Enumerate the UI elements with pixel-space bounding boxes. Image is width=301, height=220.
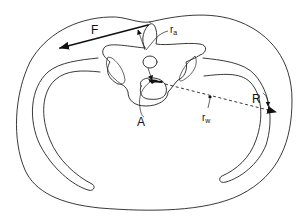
vertebra [103, 24, 206, 106]
center-of-mass-dot [208, 95, 211, 98]
label-ra: ra [170, 24, 177, 36]
label-A: A [137, 115, 145, 129]
rw-leader [208, 99, 210, 108]
label-F: F [91, 23, 98, 37]
ra-leader-curve [156, 31, 168, 38]
spinal-canal [143, 56, 157, 68]
axis-short-arrow [150, 81, 162, 82]
force-vector-F [60, 25, 148, 48]
left-rib [32, 58, 100, 190]
label-R: R [252, 92, 261, 106]
label-rw: rw [202, 112, 211, 124]
R-leader [263, 93, 268, 106]
right-rib [203, 58, 270, 182]
body-outline [16, 15, 292, 210]
ra-leader [146, 38, 156, 50]
thorax-cross-section-diagram: F ra A rw R [0, 0, 301, 220]
